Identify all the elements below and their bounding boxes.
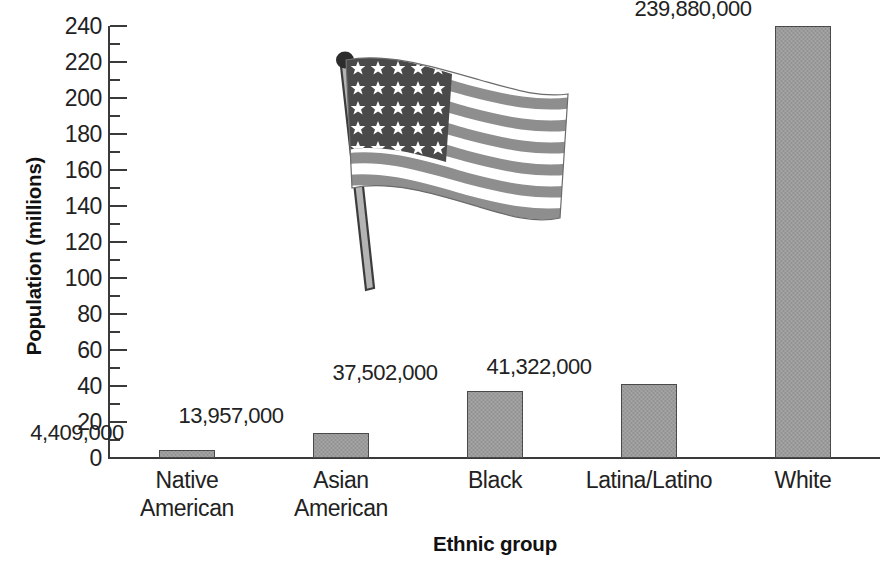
bar-value-label: 13,957,000 [121, 405, 341, 427]
x-category-label: White [703, 466, 885, 494]
bar-value-label: 41,322,000 [429, 356, 649, 378]
bar [775, 26, 831, 458]
y-tick-label: 140 [16, 195, 102, 218]
y-tick-label: 240 [16, 15, 102, 38]
y-tick-label: 160 [16, 159, 102, 182]
y-tick-label: 80 [16, 303, 102, 326]
y-tick-label: 220 [16, 51, 102, 74]
bar [467, 391, 523, 459]
y-tick-label: 180 [16, 123, 102, 146]
bar-chart: Population (millions) 240220200180160140… [0, 0, 885, 564]
y-tick-label: 120 [16, 231, 102, 254]
bar [621, 384, 677, 458]
bar-value-label: 239,880,000 [583, 0, 803, 20]
y-tick-label: 100 [16, 267, 102, 290]
bar [313, 433, 369, 458]
bar [159, 450, 215, 458]
y-tick-label: 60 [16, 339, 102, 362]
plot-area [110, 26, 880, 458]
x-axis-title: Ethnic group [110, 532, 880, 556]
y-tick-label: 200 [16, 87, 102, 110]
y-tick-label: 40 [16, 375, 102, 398]
